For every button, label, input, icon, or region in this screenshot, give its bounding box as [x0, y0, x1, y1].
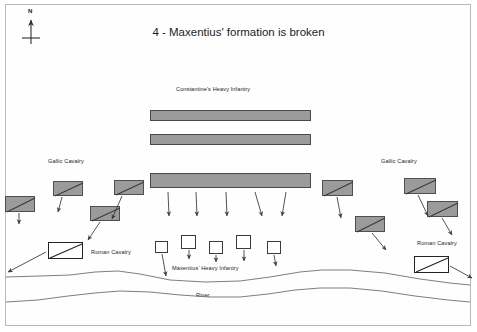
arrow-gallic-right-1 [337, 197, 341, 218]
river-lower-bank [6, 288, 470, 302]
river-upper-bank [6, 270, 470, 285]
battle-map: N 4 - Maxentius' formation is broken Con… [0, 0, 477, 332]
arrow-maxentius-1 [162, 254, 166, 276]
arrow-infantry-down-5 [282, 192, 286, 216]
arrow-maxentius-5 [274, 255, 276, 266]
arrow-roman-left [8, 252, 46, 272]
arrow-infantry-down-1 [168, 192, 169, 216]
arrow-gallic-right-4 [442, 218, 452, 235]
arrow-gallic-left-3 [112, 196, 122, 219]
arrow-gallic-right-3 [372, 233, 386, 250]
movement-arrows-layer [0, 0, 477, 332]
arrow-infantry-down-4 [255, 192, 262, 216]
arrow-infantry-down-3 [226, 192, 227, 216]
arrow-roman-right [450, 266, 472, 278]
arrow-infantry-down-2 [196, 192, 197, 216]
arrow-gallic-left-4 [88, 222, 100, 240]
arrow-gallic-left-2 [58, 197, 62, 212]
arrow-gallic-right-2 [418, 195, 428, 216]
